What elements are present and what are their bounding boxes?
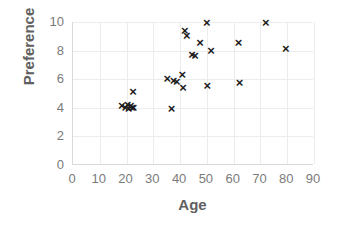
data-point-glyph: × (127, 86, 138, 98)
data-point-glyph: × (190, 50, 201, 62)
x-tick-label: 0 (57, 171, 87, 186)
y-tick-label: 8 (36, 43, 64, 58)
y-tick-label: 0 (36, 157, 64, 172)
y-tick-label: 6 (36, 71, 64, 86)
x-tick-label: 60 (218, 171, 248, 186)
gridline-horizontal (73, 136, 313, 137)
data-point-glyph: × (206, 45, 217, 57)
x-axis-title: Age (72, 196, 313, 213)
data-point-glyph: × (181, 30, 192, 42)
x-tick-label: 40 (164, 171, 194, 186)
data-point-glyph: × (178, 82, 189, 94)
data-point-glyph: × (202, 80, 213, 92)
gridline-vertical (314, 22, 315, 164)
y-tick-label: 10 (36, 14, 64, 29)
data-point-glyph: × (234, 77, 245, 89)
data-point-glyph: × (233, 37, 244, 49)
x-tick-label: 30 (137, 171, 167, 186)
data-point-glyph: × (195, 37, 206, 49)
scatter-chart-screenshot: ×××××××××××××××××××××××××× 0102030405060… (0, 0, 348, 231)
x-tick-label: 50 (191, 171, 221, 186)
gridline-vertical (100, 22, 101, 164)
x-tick-label: 10 (84, 171, 114, 186)
data-point-glyph: × (260, 17, 271, 29)
x-tick-label: 90 (298, 171, 328, 186)
gridline-vertical (260, 22, 261, 164)
data-point-glyph: × (166, 103, 177, 115)
gridline-vertical (153, 22, 154, 164)
plot-area: ×××××××××××××××××××××××××× (72, 22, 313, 165)
y-tick-label: 4 (36, 100, 64, 115)
data-point-glyph: × (128, 102, 139, 114)
data-point-glyph: × (280, 43, 291, 55)
x-tick-label: 20 (111, 171, 141, 186)
x-tick-label: 70 (244, 171, 274, 186)
gridline-horizontal (73, 79, 313, 80)
x-tick-label: 80 (271, 171, 301, 186)
gridline-horizontal (73, 108, 313, 109)
data-point-glyph: × (201, 17, 212, 29)
y-axis-title: Preference (20, 0, 37, 127)
gridline-horizontal (73, 22, 313, 23)
y-tick-label: 2 (36, 128, 64, 143)
